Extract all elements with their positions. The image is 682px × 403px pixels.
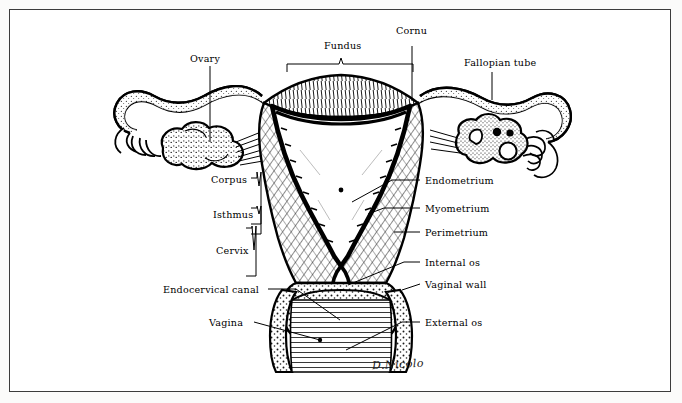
artist-signature: D.Nicolo — [372, 357, 425, 373]
label-fallopian-tube: Fallopian tube — [464, 58, 536, 68]
label-ovary: Ovary — [190, 54, 220, 64]
label-external-os: External os — [425, 318, 482, 328]
leader-vaginal-wall — [402, 284, 420, 290]
label-isthmus: Isthmus — [213, 210, 253, 220]
label-corpus: Corpus — [211, 175, 247, 185]
ovarian-follicle — [493, 128, 501, 136]
graafian-follicle — [499, 142, 516, 159]
ovarian-follicle — [506, 129, 513, 136]
right-ovary — [456, 114, 528, 163]
brace-fundus — [287, 58, 413, 72]
figure-page: Ovary Fundus Cornu Fallopian tube Corpus… — [0, 0, 682, 403]
left-fimbriae — [115, 128, 161, 156]
cavity-marker — [339, 188, 344, 193]
brace-corpus — [251, 172, 261, 234]
label-vagina: Vagina — [209, 318, 243, 328]
corpus-luteum — [470, 130, 482, 144]
uterus-anatomy-illustration — [0, 0, 682, 403]
left-ovary — [162, 122, 243, 169]
label-vaginal-wall: Vaginal wall — [425, 280, 486, 290]
label-fundus: Fundus — [324, 41, 361, 51]
label-cornu: Cornu — [396, 26, 427, 36]
label-endometrium: Endometrium — [425, 176, 494, 186]
label-perimetrium: Perimetrium — [425, 228, 488, 238]
label-myometrium: Myometrium — [425, 204, 490, 214]
label-endocervical-canal: Endocervical canal — [163, 285, 259, 295]
label-internal-os: Internal os — [425, 258, 480, 268]
label-cervix: Cervix — [216, 246, 249, 256]
